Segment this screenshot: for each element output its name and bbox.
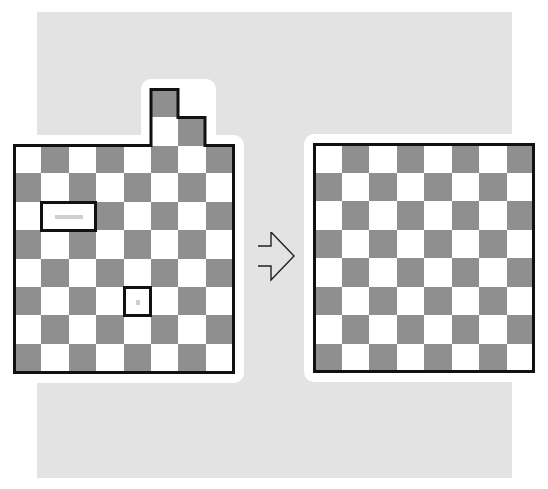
board-cell bbox=[507, 315, 535, 344]
board-cell bbox=[369, 315, 397, 344]
board-cell bbox=[342, 315, 370, 344]
board-cell bbox=[452, 144, 480, 173]
board-cell bbox=[314, 315, 342, 344]
board-cell bbox=[452, 344, 480, 373]
board-cell bbox=[479, 287, 507, 316]
board-cell bbox=[424, 230, 452, 259]
board-cell bbox=[397, 344, 425, 373]
board-cell bbox=[452, 230, 480, 259]
board-cell bbox=[342, 201, 370, 230]
board-cell bbox=[342, 144, 370, 173]
board-cell bbox=[507, 173, 535, 202]
board-cell bbox=[452, 173, 480, 202]
board-cell bbox=[342, 258, 370, 287]
board-cell bbox=[424, 287, 452, 316]
board-cell bbox=[369, 344, 397, 373]
board-cell bbox=[314, 230, 342, 259]
board-cell bbox=[369, 258, 397, 287]
board-cell bbox=[479, 201, 507, 230]
board-cell bbox=[424, 315, 452, 344]
board-cell bbox=[342, 344, 370, 373]
board-cell bbox=[397, 258, 425, 287]
board-cell bbox=[424, 144, 452, 173]
board-cell bbox=[479, 173, 507, 202]
board-cell bbox=[369, 201, 397, 230]
board-cell bbox=[314, 201, 342, 230]
board-cell bbox=[397, 287, 425, 316]
marked-domino-hole[interactable] bbox=[40, 201, 97, 232]
dash-marker-icon bbox=[55, 215, 83, 219]
board-cell bbox=[479, 344, 507, 373]
board-cell bbox=[314, 344, 342, 373]
board-cell bbox=[369, 287, 397, 316]
board-cell bbox=[507, 230, 535, 259]
board-cell bbox=[452, 287, 480, 316]
board-cell bbox=[479, 230, 507, 259]
marked-single-hole[interactable] bbox=[123, 286, 152, 317]
board-cell bbox=[369, 173, 397, 202]
board-cell bbox=[397, 230, 425, 259]
board-cell bbox=[479, 315, 507, 344]
board-cell bbox=[397, 315, 425, 344]
board-cell bbox=[424, 344, 452, 373]
board-cell bbox=[452, 258, 480, 287]
dot-marker-icon bbox=[136, 300, 140, 305]
right-arrow-icon bbox=[258, 232, 298, 282]
board-cell bbox=[424, 201, 452, 230]
board-cell bbox=[397, 201, 425, 230]
board-cell bbox=[369, 144, 397, 173]
board-cell bbox=[452, 315, 480, 344]
board-cell bbox=[342, 230, 370, 259]
board-cell bbox=[424, 258, 452, 287]
board-cell bbox=[507, 144, 535, 173]
board-cell bbox=[314, 144, 342, 173]
board-cell bbox=[507, 201, 535, 230]
board-cell bbox=[369, 230, 397, 259]
board-cell bbox=[314, 173, 342, 202]
board-cell bbox=[314, 287, 342, 316]
board-cell bbox=[342, 173, 370, 202]
board-cell bbox=[342, 287, 370, 316]
board-cell bbox=[314, 258, 342, 287]
board-cell bbox=[479, 258, 507, 287]
board-cell bbox=[424, 173, 452, 202]
board-cell bbox=[479, 144, 507, 173]
board-cell bbox=[397, 173, 425, 202]
board-cell bbox=[452, 201, 480, 230]
board-cell bbox=[507, 344, 535, 373]
board-cell bbox=[507, 287, 535, 316]
board-cell bbox=[397, 144, 425, 173]
board-cell bbox=[507, 258, 535, 287]
